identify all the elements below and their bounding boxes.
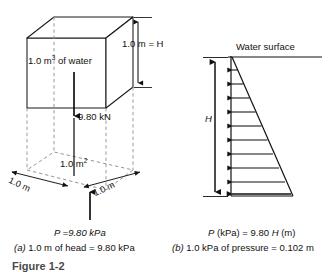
- cube-height-label: 1.0 m = H: [122, 39, 163, 49]
- caption-b-tag: (b): [172, 242, 184, 253]
- depth-symbol-label: H: [205, 114, 212, 124]
- pressure-distribution-diagram: [203, 56, 322, 197]
- caption-b-equation-tail: (m): [279, 227, 296, 238]
- caption-b: (b) 1.0 kPa of pressure = 0.102 m: [172, 243, 314, 253]
- cube-height-dimension: [134, 18, 152, 88]
- cube-base-area-label: 1.0 m2: [60, 159, 87, 169]
- caption-a: (a) 1.0 m of head = 9.80 kPa: [14, 243, 135, 253]
- caption-b-equation: P (kPa) = 9.80 H (m): [208, 228, 295, 238]
- depth-dimension-arrow: [203, 58, 228, 197]
- cube-base-area-exponent: 2: [84, 157, 88, 164]
- caption-a-equation-text: P =9.80 kPa: [54, 227, 106, 238]
- caption-a-tag: (a): [14, 242, 26, 253]
- caption-a-equation: P =9.80 kPa: [54, 228, 106, 238]
- caption-b-equation-rest: (kPa) = 9.80: [214, 227, 271, 238]
- caption-b-equation-var: H: [272, 227, 279, 238]
- cube-front-face: [27, 38, 106, 108]
- caption-a-text: 1.0 m of head = 9.80 kPa: [28, 242, 134, 253]
- caption-b-text: 1.0 kPa of pressure = 0.102 m: [186, 242, 314, 253]
- cube-volume-label: 1.0 m3 of water: [28, 56, 92, 66]
- figure-number-label: Figure 1-2: [12, 260, 65, 272]
- pressure-arrow-set: [232, 70, 291, 194]
- water-surface-label: Water surface: [236, 42, 295, 52]
- cube-weight-label: 9.80 kN: [78, 112, 111, 122]
